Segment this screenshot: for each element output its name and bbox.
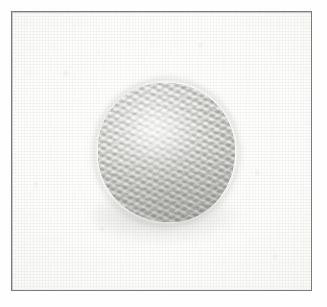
yarn-ball [98,83,235,222]
photo-frame-border [11,11,312,291]
figure-root [0,0,327,307]
yarn-ball-base-shading [98,83,235,222]
